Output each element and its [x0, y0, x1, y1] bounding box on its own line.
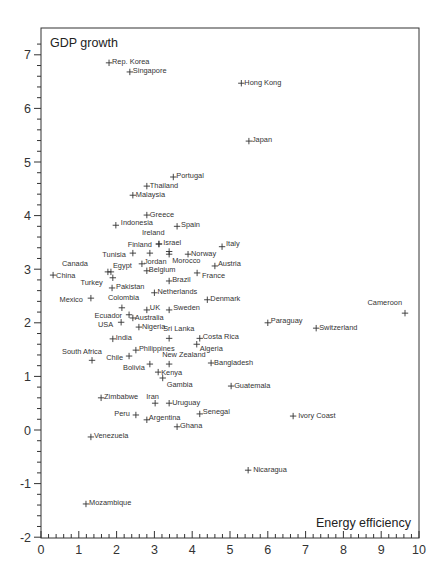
point-label: Zimbabwe	[104, 392, 138, 401]
data-point: Brazil	[166, 275, 191, 284]
data-point: USA	[98, 319, 124, 329]
data-point: Switzerland	[313, 323, 357, 332]
point-label: South Africa	[62, 347, 103, 356]
y-tick-label: 7	[24, 48, 31, 62]
y-tick-label: 2	[24, 316, 31, 330]
data-point: Spain	[174, 220, 200, 230]
point-label: Switzerland	[319, 323, 357, 332]
point-label: Norway	[191, 249, 216, 258]
point-label: Kenya	[161, 368, 183, 377]
point-label: Nicaragua	[253, 465, 288, 474]
x-tick-label: 10	[412, 543, 426, 557]
data-point: UK	[144, 303, 161, 313]
point-label: Malaysia	[136, 190, 166, 199]
data-point: Costa Rica	[197, 332, 240, 342]
data-point: Portugal	[170, 171, 204, 181]
point-label: Egypt	[113, 261, 132, 270]
point-label: New Zealand	[162, 350, 206, 359]
x-tick-label: 3	[151, 543, 158, 557]
point-label: Ghana	[180, 421, 203, 430]
x-tick-label: 9	[378, 543, 385, 557]
x-tick-label: 1	[75, 543, 82, 557]
point-label: Denmark	[210, 294, 240, 303]
point-label: Gambia	[167, 380, 194, 389]
point-label: Sweden	[173, 303, 200, 312]
y-tick-label: 4	[24, 209, 31, 223]
data-point: Austria	[212, 259, 242, 269]
data-point: Malaysia	[130, 190, 166, 199]
data-point: Zimbabwe	[98, 392, 138, 401]
data-point: Sri Lanka	[163, 324, 195, 342]
data-point: Gambia	[160, 375, 194, 389]
data-point: Peru	[114, 409, 139, 418]
point-label: Mozambique	[89, 498, 131, 507]
point-label: Peru	[114, 409, 130, 418]
scatter-chart: 012345678910-2-101234567 GDP growth Ener…	[0, 0, 447, 585]
axis-ticks	[34, 44, 419, 538]
data-point: Rep. Korea	[106, 57, 150, 66]
data-point: Finland	[128, 240, 162, 249]
point-label: Austria	[218, 259, 242, 268]
point-label: Singapore	[133, 66, 167, 75]
point-label: Bolivia	[123, 363, 146, 372]
y-axis-title: GDP growth	[50, 36, 118, 50]
y-tick-label: 5	[24, 156, 31, 170]
point-label: Costa Rica	[203, 332, 240, 341]
data-point: Venezuela	[88, 431, 130, 440]
point-label: Colombia	[108, 293, 140, 302]
data-point: Turkey	[81, 275, 117, 288]
data-point	[147, 250, 153, 256]
data-point: Italy	[219, 239, 240, 250]
point-label: Portugal	[176, 171, 204, 180]
point-label: Mexico	[59, 295, 82, 304]
data-point: Mozambique	[83, 498, 132, 507]
data-point: China	[50, 271, 76, 280]
data-point: Bolivia	[123, 361, 153, 372]
data-point: Chile	[106, 353, 132, 362]
data-point: Mexico	[59, 295, 94, 304]
data-point: New Zealand	[162, 350, 206, 368]
point-label: Netherlands	[157, 287, 197, 296]
plot-area: 012345678910-2-101234567 GDP growth Ener…	[0, 0, 447, 585]
data-point: Kenya	[155, 368, 183, 377]
y-tick-label: 6	[24, 102, 31, 116]
data-points: Rep. KoreaSingaporeHong KongJapanPortuga…	[50, 57, 408, 507]
data-point: Colombia	[108, 293, 140, 311]
data-point: Denmark	[204, 294, 240, 303]
x-tick-label: 5	[227, 543, 234, 557]
point-label: Japan	[252, 135, 272, 144]
data-point: Argentina	[144, 413, 182, 423]
y-tick-label: -2	[20, 531, 31, 545]
point-label: Bangladesh	[214, 358, 253, 367]
y-tick-label: -1	[20, 477, 31, 491]
data-point: France	[194, 270, 225, 281]
data-point: Iran	[146, 392, 159, 407]
point-label: India	[116, 333, 133, 342]
point-label: Senegal	[203, 407, 230, 416]
y-tick-label: 0	[24, 424, 31, 438]
data-point: Hong Kong	[238, 78, 281, 87]
data-point: Sweden	[166, 303, 200, 313]
data-point: Nigeria	[136, 322, 167, 331]
data-point: Ivory Coast	[290, 411, 336, 420]
x-tick-label: 4	[189, 543, 196, 557]
point-label: Ivory Coast	[298, 411, 335, 420]
point-label: USA	[98, 320, 113, 329]
data-point: Nicaragua	[245, 465, 288, 474]
point-label: China	[56, 271, 76, 280]
point-label: Indonesia	[121, 218, 154, 227]
data-point: Singapore	[127, 66, 167, 75]
data-point: Ghana	[174, 421, 203, 430]
point-label: UK	[150, 303, 160, 312]
data-point: Pakistan	[109, 282, 145, 291]
point-label: Argentina	[149, 413, 182, 422]
data-point: Belgium	[144, 265, 176, 274]
x-tick-label: 6	[264, 543, 271, 557]
point-label: Canada	[62, 259, 89, 268]
data-point: South Africa	[62, 347, 103, 364]
point-label: Paraguay	[271, 316, 303, 325]
data-point: Japan	[246, 135, 272, 145]
data-point: Tunisia	[102, 250, 136, 259]
data-point: Netherlands	[151, 287, 197, 296]
point-label: Thailand	[150, 181, 178, 190]
